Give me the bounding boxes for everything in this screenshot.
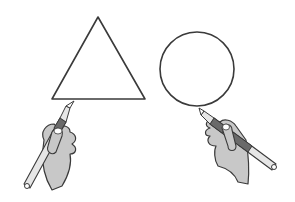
triangle-shape bbox=[52, 17, 145, 99]
right-hand-with-pen bbox=[199, 108, 277, 184]
left-hand-with-pen bbox=[24, 101, 76, 190]
drawing bbox=[0, 0, 295, 202]
circle-shape bbox=[160, 32, 234, 106]
illustration-canvas bbox=[0, 0, 295, 202]
